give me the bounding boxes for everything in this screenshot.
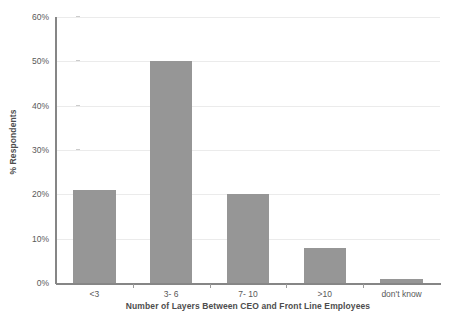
bar[interactable] — [150, 61, 192, 283]
bar-slot — [210, 17, 287, 283]
y-axis-tick-label: 40% — [32, 101, 49, 111]
x-axis-tick-label: >10 — [286, 289, 363, 299]
y-axis-title: % Respondents — [0, 0, 26, 283]
bar-slot — [286, 17, 363, 283]
bar[interactable] — [227, 194, 269, 283]
y-axis-tick-label: 30% — [32, 145, 49, 155]
bar[interactable] — [304, 248, 346, 283]
y-axis-tick-label: 10% — [32, 234, 49, 244]
x-axis-tick-label: 7- 10 — [210, 289, 287, 299]
y-axis-tick-label: 60% — [32, 12, 49, 22]
bar[interactable] — [380, 279, 422, 283]
y-axis-tick-label-group: 0%10%20%30%40%50%60% — [24, 17, 52, 283]
x-axis-tick-label-group: <33- 67- 10>10don't know — [56, 289, 440, 299]
bar[interactable] — [73, 190, 115, 283]
x-axis-tick-label: 3- 6 — [133, 289, 210, 299]
x-axis-tick-mark — [210, 284, 211, 288]
y-axis-tick-label: 50% — [32, 56, 49, 66]
x-axis-tick-label: <3 — [56, 289, 133, 299]
y-axis-title-text: % Respondents — [8, 109, 18, 174]
x-axis-tick-mark — [286, 284, 287, 288]
x-axis-tick-mark — [363, 284, 364, 288]
x-axis-tick-mark-group — [56, 284, 440, 288]
x-axis-tick-label: don't know — [363, 289, 440, 299]
bar-slot — [363, 17, 440, 283]
bar-chart: % Respondents 0%10%20%30%40%50%60% <33- … — [0, 0, 470, 316]
y-axis-tick-label: 0% — [37, 278, 49, 288]
bar-series-group — [56, 17, 440, 283]
bar-slot — [56, 17, 133, 283]
y-axis-tick-label: 20% — [32, 189, 49, 199]
x-axis-title: Number of Layers Between CEO and Front L… — [56, 301, 440, 311]
bar-slot — [133, 17, 210, 283]
x-axis-tick-mark — [133, 284, 134, 288]
